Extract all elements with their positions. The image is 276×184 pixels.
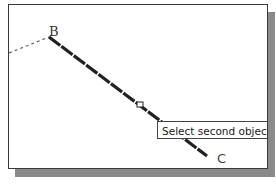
point-label-c: C (217, 152, 226, 165)
window-shadow-right (267, 12, 275, 177)
command-prompt-tooltip: Select second object or (157, 121, 268, 139)
pickbox-cursor-icon (137, 102, 143, 107)
dashed-construction-line (9, 37, 49, 53)
drawing-canvas[interactable]: B C Select second object or (8, 4, 268, 169)
window-shadow-bottom (15, 168, 275, 177)
drawing-svg (9, 5, 267, 168)
point-label-b: B (49, 25, 59, 38)
